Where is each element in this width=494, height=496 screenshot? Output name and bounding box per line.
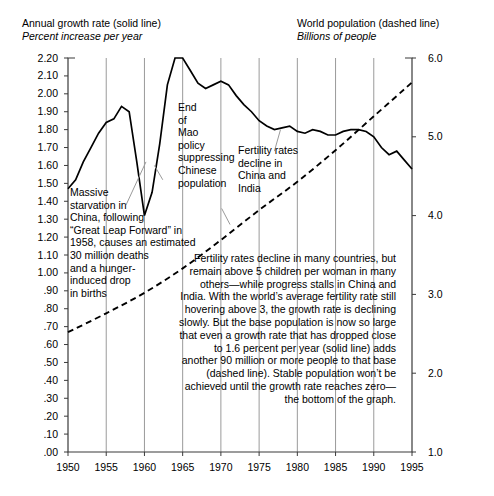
right-axis-tick-label: 5.0: [428, 131, 443, 142]
left-axis-tick-label: 1.50: [22, 178, 58, 189]
right-axis-tick-label: 3.0: [428, 289, 443, 300]
left-axis-tick-label: .00: [22, 447, 58, 458]
left-axis-tick-label: .80: [22, 303, 58, 314]
x-axis-tick-label: 1955: [86, 462, 126, 473]
annotation-end-of-mao-policy: End of Mao policy suppressing Chinese po…: [178, 101, 235, 189]
left-axis-tick-label: 1.70: [22, 142, 58, 153]
left-axis-tick-label: .30: [22, 393, 58, 404]
x-axis-tick-label: 1985: [316, 462, 356, 473]
left-axis-tick-label: 2.00: [22, 88, 58, 99]
leader-line-summary: [222, 208, 230, 224]
left-axis-tick-label: 1.10: [22, 250, 58, 261]
chart-figure: Annual growth rate (solid line) Percent …: [0, 0, 494, 496]
left-axis-tick-label: .60: [22, 339, 58, 350]
left-axis-tick-label: 1.90: [22, 106, 58, 117]
annotation-summary-paragraph: Fertility rates decline in many countrie…: [178, 252, 396, 406]
right-axis-tick-label: 4.0: [428, 210, 443, 221]
left-axis-tick-label: 2.20: [22, 53, 58, 64]
right-axis-tick-label: 6.0: [428, 53, 443, 64]
left-axis-tick-label: 1.40: [22, 196, 58, 207]
left-axis-tick-label: .20: [22, 411, 58, 422]
x-axis-tick-label: 1960: [124, 462, 164, 473]
right-axis-tick-label: 1.0: [428, 447, 443, 458]
annotation-fertility-decline: Fertility rates decline in China and Ind…: [238, 144, 298, 194]
left-axis-tick-label: 2.10: [22, 70, 58, 81]
x-axis-tick-label: 1965: [163, 462, 203, 473]
left-axis-tick-label: .50: [22, 357, 58, 368]
right-axis-tick-label: 2.0: [428, 368, 443, 379]
annotation-massive-starvation: Massive starvation in China, following “…: [70, 186, 196, 299]
x-axis-tick-label: 1970: [201, 462, 241, 473]
left-axis-tick-label: 1.20: [22, 232, 58, 243]
left-axis-tick-label: 1.00: [22, 267, 58, 278]
left-axis-tick-label: .90: [22, 285, 58, 296]
left-axis-tick-label: .10: [22, 429, 58, 440]
left-axis-tick-label: 1.60: [22, 160, 58, 171]
left-axis-tick-label: .40: [22, 375, 58, 386]
left-axis-tick-label: .70: [22, 321, 58, 332]
x-axis-tick-label: 1950: [48, 462, 88, 473]
x-axis-tick-label: 1975: [239, 462, 279, 473]
left-axis-tick-label: 1.30: [22, 214, 58, 225]
x-axis-tick-label: 1990: [354, 462, 394, 473]
left-axis-tick-label: 1.80: [22, 124, 58, 135]
x-axis-tick-label: 1995: [392, 462, 432, 473]
x-axis-tick-label: 1980: [277, 462, 317, 473]
